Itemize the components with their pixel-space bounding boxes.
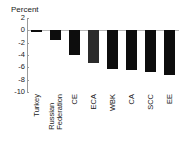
y-tick-mark [27,67,29,68]
y-tick-mark [27,43,29,44]
x-tick-label-line: CE [70,94,79,104]
bar [145,30,156,72]
x-tick-label-slot: RussianFederation [46,93,65,148]
x-axis-tick-labels: TurkeyRussianFederationCEECAWBKCASCCEE [27,93,179,148]
y-axis-tick-labels: 20-2-4-6-8-10 [0,18,25,92]
bar [126,30,137,69]
y-tick-mark [27,80,29,81]
y-tick-label: -4 [1,51,25,59]
x-tick-label-slot: WBK [103,93,122,148]
y-tick-label: -2 [1,39,25,47]
y-tick-label: -8 [1,76,25,84]
x-tick-label-line: SCC [146,94,155,110]
y-tick-label: 2 [1,14,25,22]
x-tick-label: WBK [109,94,117,111]
y-tick-label: 0 [1,26,25,34]
x-tick-label-slot: CE [65,93,84,148]
y-tick-label: -10 [1,88,25,96]
x-tick-label-line: Turkey [32,94,41,117]
bar [107,30,118,69]
x-tick-label: CA [128,94,136,104]
x-tick-label-line: Federation [56,94,64,130]
y-tick-mark [27,18,29,19]
x-tick-label: ECA [90,94,98,109]
y-tick-mark [27,55,29,56]
x-tick-label-line: EE [165,94,174,104]
bar [88,30,99,63]
plot-area [27,18,179,92]
x-tick-label: Turkey [33,94,41,117]
bar [69,30,80,55]
x-tick-label: SCC [147,94,155,110]
x-tick-label-slot: ECA [84,93,103,148]
x-tick-label-slot: SCC [141,93,160,148]
bar [164,30,175,75]
y-tick-mark [27,92,29,93]
x-tick-label: EE [166,94,174,104]
bar [31,30,42,32]
x-tick-label-line: WBK [108,94,117,111]
x-tick-label: RussianFederation [48,94,64,130]
x-tick-label-slot: CA [122,93,141,148]
x-tick-label-line: ECA [89,94,98,109]
bar [50,30,61,39]
x-tick-label-line: CA [127,94,136,104]
bar-chart: Percent 20-2-4-6-8-10 TurkeyRussianFeder… [0,0,181,148]
x-tick-label-slot: Turkey [27,93,46,148]
x-tick-label: CE [71,94,79,104]
y-tick-mark [27,30,29,31]
y-tick-label: -6 [1,63,25,71]
x-tick-label-slot: EE [160,93,179,148]
